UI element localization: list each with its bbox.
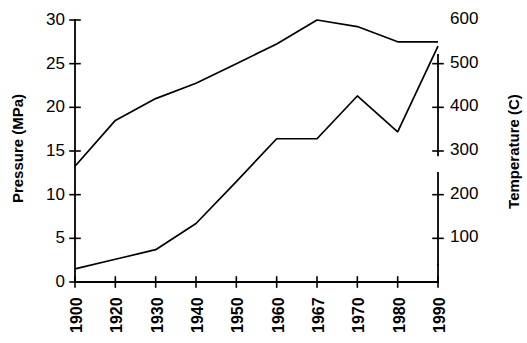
y-axis-left-tick-15: 15 xyxy=(31,141,65,161)
series-lines xyxy=(75,20,438,269)
y-axis-right-tick-100: 100 xyxy=(450,227,494,247)
y-axis-right-tick-400: 400 xyxy=(450,96,494,116)
y-axis-left-tick-5: 5 xyxy=(31,228,65,248)
y-axis-right-tick-500: 500 xyxy=(450,53,494,73)
plot-area xyxy=(0,0,527,343)
x-axis-tick-1980: 1980 xyxy=(391,297,409,333)
series-line xyxy=(75,20,438,166)
chart-figure: Pressure (MPa) Temperature (C) 051015202… xyxy=(0,0,527,343)
y-axis-left-tick-0: 0 xyxy=(31,272,65,292)
x-axis-tick-1960: 1960 xyxy=(270,297,288,333)
y-axis-right-tick-300: 300 xyxy=(450,140,494,160)
x-axis-tick-1990: 1990 xyxy=(431,297,449,333)
x-axis-tick-1950: 1950 xyxy=(229,297,247,333)
x-axis-tick-1930: 1930 xyxy=(149,297,167,333)
y-axis-right-tick-200: 200 xyxy=(450,184,494,204)
x-axis-tick-1940: 1940 xyxy=(189,297,207,333)
x-axis-tick-1900: 1900 xyxy=(68,297,86,333)
y-axis-left-tick-25: 25 xyxy=(31,54,65,74)
y-axis-right-tick-600: 600 xyxy=(450,9,494,29)
series-line xyxy=(75,46,438,269)
tick-marks xyxy=(70,20,443,287)
x-axis-tick-1970: 1970 xyxy=(350,297,368,333)
x-axis-tick-1920: 1920 xyxy=(108,297,126,333)
y-axis-left-tick-10: 10 xyxy=(31,185,65,205)
x-axis-tick-1967: 1967 xyxy=(310,297,328,333)
y-axis-left-tick-20: 20 xyxy=(31,97,65,117)
axis-lines xyxy=(75,20,438,282)
y-axis-left-tick-30: 30 xyxy=(31,10,65,30)
